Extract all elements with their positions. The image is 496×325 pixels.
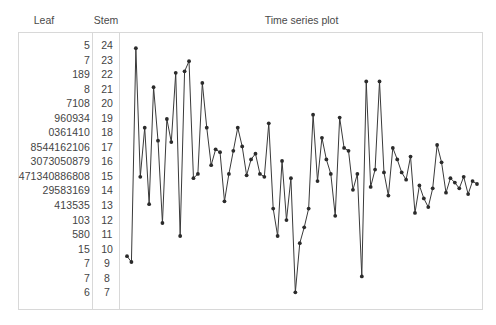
data-point <box>285 218 289 222</box>
data-point <box>418 184 422 188</box>
data-point <box>426 205 430 209</box>
data-point <box>262 175 266 179</box>
leaf-value: 960934 <box>2 111 90 126</box>
data-point <box>143 126 147 130</box>
data-point <box>289 176 293 180</box>
data-point <box>147 202 151 206</box>
data-point <box>236 126 240 130</box>
data-point <box>161 221 165 225</box>
data-point <box>218 150 222 154</box>
leaf-value: 7 <box>2 271 90 286</box>
data-point <box>169 140 173 144</box>
data-point <box>209 163 213 167</box>
data-point <box>475 182 479 186</box>
stem-leaf-row: 47134088680815 <box>18 169 119 184</box>
time-series-line <box>127 48 477 292</box>
data-point <box>192 176 196 180</box>
stem-leaf-row: 96093419 <box>18 111 119 126</box>
data-point <box>462 175 466 179</box>
data-point <box>258 172 262 176</box>
stem-leaf-row: 58011 <box>18 227 119 242</box>
stem-leaf-row: 10312 <box>18 213 119 228</box>
stem-leaf-row: 710820 <box>18 96 119 111</box>
data-point <box>307 207 311 211</box>
data-point <box>404 178 408 182</box>
data-point <box>400 171 404 175</box>
stem-leaf-row: 723 <box>18 53 119 68</box>
stem-value: 23 <box>94 53 120 68</box>
leaf-value: 8544162106 <box>2 140 90 155</box>
stem-value: 7 <box>94 285 120 300</box>
stem-leaf-row: 79 <box>18 256 119 271</box>
stem-leaf-row: 854416210617 <box>18 140 119 155</box>
data-point <box>466 192 470 196</box>
stem-value: 24 <box>94 38 120 53</box>
stem-value: 11 <box>94 227 120 242</box>
leaf-value: 0361410 <box>2 125 90 140</box>
stem-leaf-timeseries-figure: Leaf Stem Time series plot 5247231892282… <box>0 0 496 325</box>
stem-value: 20 <box>94 96 120 111</box>
stem-value: 16 <box>94 154 120 169</box>
data-point <box>276 234 280 238</box>
data-point <box>351 188 355 192</box>
data-point <box>138 175 142 179</box>
leaf-value: 7 <box>2 53 90 68</box>
data-point <box>200 81 204 85</box>
stem-value: 18 <box>94 125 120 140</box>
data-point <box>240 145 244 149</box>
stem-leaf-row: 036141018 <box>18 125 119 140</box>
leaf-value: 6 <box>2 285 90 300</box>
data-point <box>231 149 235 153</box>
stem-column-header: Stem <box>93 14 119 26</box>
data-point <box>440 160 444 164</box>
stem-value: 14 <box>94 183 120 198</box>
stem-leaf-row: 78 <box>18 271 119 286</box>
data-point <box>360 275 364 279</box>
data-point <box>152 85 156 89</box>
stem-value: 21 <box>94 82 120 97</box>
plot-title: Time series plot <box>120 14 483 26</box>
data-point <box>444 191 448 195</box>
leaf-value: 580 <box>2 227 90 242</box>
stem-leaf-row: 41353513 <box>18 198 119 213</box>
data-point <box>435 143 439 147</box>
data-point <box>311 113 315 117</box>
leaf-column-header: Leaf <box>0 14 88 26</box>
data-point <box>471 179 475 183</box>
data-point <box>316 179 320 183</box>
stem-leaf-row: 1510 <box>18 242 119 257</box>
stem-value: 22 <box>94 67 120 82</box>
leaf-value: 413535 <box>2 198 90 213</box>
data-point <box>134 46 138 50</box>
data-point <box>223 199 227 203</box>
stem-leaf-row: 307305087916 <box>18 154 119 169</box>
stem-value: 19 <box>94 111 120 126</box>
data-point <box>125 254 129 258</box>
data-point <box>183 69 187 73</box>
stem-leaf-row: 524 <box>18 38 119 53</box>
data-point <box>329 172 333 176</box>
data-point <box>205 126 209 130</box>
leaf-value: 15 <box>2 242 90 257</box>
leaf-value: 29583169 <box>2 183 90 198</box>
data-point <box>302 225 306 229</box>
data-point <box>178 234 182 238</box>
data-point <box>280 159 284 163</box>
leaf-value: 7108 <box>2 96 90 111</box>
data-point <box>409 155 413 159</box>
data-point <box>298 241 302 245</box>
data-point <box>156 139 160 143</box>
data-point <box>342 146 346 150</box>
data-point <box>449 176 453 180</box>
data-point <box>174 71 178 75</box>
data-point <box>320 136 324 140</box>
time-series-plot <box>120 33 482 309</box>
leaf-value: 8 <box>2 82 90 97</box>
data-point <box>382 171 386 175</box>
leaf-value: 189 <box>2 67 90 82</box>
leaf-value: 5 <box>2 38 90 53</box>
stem-value: 12 <box>94 213 120 228</box>
data-point <box>373 168 377 172</box>
data-point <box>254 152 258 156</box>
stem-value: 17 <box>94 140 120 155</box>
